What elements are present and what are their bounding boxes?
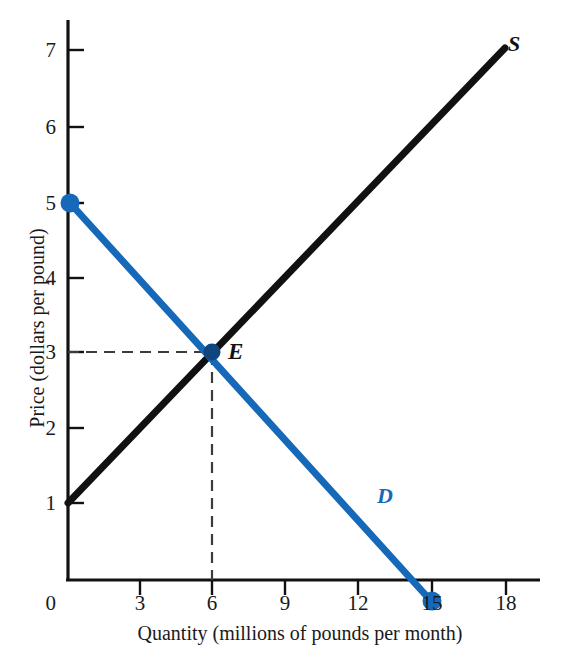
x-tick-label-6: 6 (192, 593, 232, 614)
chart-figure: 7 6 5 4 3 2 1 0 3 6 9 12 15 18 Price (do… (0, 0, 561, 654)
y-axis-title: Price (dollars per pound) (27, 178, 47, 478)
axis-lines (66, 20, 540, 580)
equilibrium-point-marker (204, 344, 221, 361)
demand-curve-label: D (377, 485, 393, 507)
demand-endpoint-marker-top (61, 194, 80, 213)
x-tick-label-3: 3 (120, 593, 160, 614)
y-tick-label-6: 6 (30, 117, 56, 138)
supply-demand-plot (0, 0, 561, 654)
demand-curve (70, 203, 432, 602)
x-tick-label-9: 9 (265, 593, 305, 614)
y-tick-label-1: 1 (30, 493, 56, 514)
x-axis-title: Quantity (millions of pounds per month) (60, 623, 540, 643)
y-tick-label-7: 7 (30, 40, 56, 61)
x-tick-label-18: 18 (486, 593, 526, 614)
x-tick-label-15: 15 (412, 593, 452, 614)
y-tick-label-0: 0 (30, 593, 56, 614)
y-axis-ticks (68, 50, 84, 503)
supply-curve-label: S (508, 33, 520, 55)
equilibrium-point-label: E (228, 340, 243, 363)
equilibrium-guides (68, 352, 212, 580)
x-tick-label-12: 12 (338, 593, 378, 614)
